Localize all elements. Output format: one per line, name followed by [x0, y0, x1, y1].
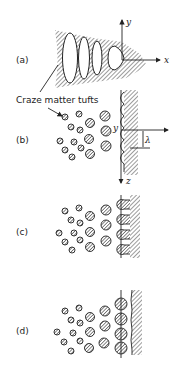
- void-2: [79, 37, 90, 79]
- craze-diagram: y x (a) Craze matter tufts (b) y z λ: [0, 0, 178, 378]
- lambda-label: λ: [144, 135, 151, 145]
- craze-tip-wall-d: [132, 290, 142, 355]
- panel-c: (c): [16, 195, 140, 258]
- craze-tip-wall-c: [130, 195, 140, 258]
- z-axis-label-b: z: [125, 176, 131, 186]
- x-axis-label-a: x: [164, 55, 169, 65]
- void-3: [92, 41, 102, 75]
- fingers-c: [117, 200, 130, 255]
- tufts-d: [54, 305, 110, 354]
- panel-label-b: (b): [16, 135, 29, 145]
- craze-tip-wall-b: [124, 90, 138, 175]
- panel-label-c: (c): [16, 227, 28, 237]
- y-axis-label-a: y: [125, 17, 132, 27]
- y-axis-label-b: y: [112, 123, 119, 133]
- panel-label-d: (d): [16, 326, 29, 336]
- craze-matter-tufts-label: Craze matter tufts: [16, 95, 99, 105]
- panel-d: (d): [16, 290, 142, 358]
- tufts-b: [57, 111, 111, 160]
- flat-interface-d: [131, 290, 132, 355]
- annotation-leader-b: [48, 108, 62, 116]
- void-1: [63, 33, 78, 83]
- tufts-c: [56, 205, 111, 253]
- panel-a: y x (a): [16, 17, 169, 92]
- panel-label-a: (a): [16, 55, 29, 65]
